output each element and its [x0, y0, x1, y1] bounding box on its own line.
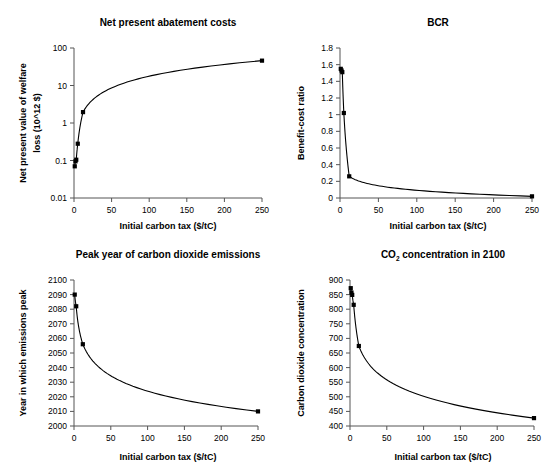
chart-svg-peak-year-of-carbon-dioxide-emissions: Peak year of carbon dioxide emissions200…	[0, 236, 277, 472]
x-tick-label: 250	[525, 205, 539, 215]
data-point-marker	[349, 286, 353, 290]
x-tick-label: 250	[251, 433, 265, 443]
x-tick-label: 0	[72, 433, 77, 443]
data-point-marker	[352, 303, 356, 307]
y-tick-label: 550	[329, 377, 343, 387]
y-tick-label: 0.01	[50, 193, 67, 203]
y-tick-label: 750	[329, 319, 343, 329]
y-tick-label: 100	[53, 43, 67, 53]
x-tick-label: 150	[453, 433, 467, 443]
chart-svg-net-present-abatement-costs: Net present abatement costs0.010.1110100…	[0, 0, 277, 236]
x-tick-label: 150	[448, 205, 462, 215]
y-axis-title: Year in which emissions peak	[18, 288, 28, 416]
x-axis-title: Initial carbon tax ($/tC)	[389, 221, 486, 231]
chart-title: Net present abatement costs	[100, 17, 237, 28]
chart-panel-co2-concentration: CO2 concentration in 2100400450500550600…	[278, 236, 555, 472]
x-tick-label: 100	[141, 433, 155, 443]
x-tick-label: 250	[255, 205, 269, 215]
y-tick-label: 0.8	[321, 126, 333, 136]
x-tick-label: 50	[374, 205, 384, 215]
y-tick-label: 0	[328, 193, 333, 203]
x-tick-label: 250	[527, 433, 541, 443]
data-series-curve	[351, 288, 534, 418]
data-point-marker	[73, 164, 77, 168]
y-tick-label: 700	[329, 333, 343, 343]
y-tick-label: 2060	[48, 333, 67, 343]
x-axis-title: Initial carbon tax ($/tC)	[119, 452, 216, 462]
chart-svg-bcr: BCR00.20.40.60.811.21.41.61.805010015020…	[278, 0, 555, 236]
data-series-curve	[75, 295, 258, 412]
data-point-marker	[530, 194, 534, 198]
x-axis-title: Initial carbon tax ($/tC)	[394, 452, 491, 462]
y-tick-label: 0.2	[321, 176, 333, 186]
y-tick-label: 2090	[48, 290, 67, 300]
y-tick-label: 1.6	[321, 60, 333, 70]
x-tick-label: 200	[214, 433, 228, 443]
data-point-marker	[342, 111, 346, 115]
y-tick-label: 2020	[48, 392, 67, 402]
data-point-marker	[81, 342, 85, 346]
x-tick-label: 150	[180, 205, 194, 215]
x-tick-label: 150	[177, 433, 191, 443]
x-tick-label: 200	[487, 205, 501, 215]
y-tick-label: 600	[329, 363, 343, 373]
x-tick-label: 50	[107, 205, 117, 215]
chart-title: CO2 concentration in 2100	[381, 249, 506, 262]
y-tick-label: 2080	[48, 304, 67, 314]
y-tick-label: 1.2	[321, 93, 333, 103]
x-tick-label: 200	[217, 205, 231, 215]
y-tick-label: 650	[329, 348, 343, 358]
y-axis-title: loss (10^12 $)	[32, 93, 42, 152]
y-tick-label: 2010	[48, 406, 67, 416]
x-tick-label: 0	[72, 205, 77, 215]
data-point-marker	[350, 293, 354, 297]
y-axis-title: Benefit-cost ratio	[296, 85, 306, 160]
chart-title: Peak year of carbon dioxide emissions	[76, 249, 261, 260]
chart-svg-co2-concentration-in-2100: CO2 concentration in 2100400450500550600…	[278, 236, 555, 472]
y-tick-label: 1.8	[321, 43, 333, 53]
x-tick-label: 0	[338, 205, 343, 215]
data-point-marker	[76, 142, 80, 146]
x-axis-title: Initial carbon tax ($/tC)	[119, 221, 216, 231]
y-tick-label: 800	[329, 304, 343, 314]
data-point-marker	[340, 70, 344, 74]
data-series-curve	[341, 69, 532, 197]
data-point-marker	[74, 158, 78, 162]
y-tick-label: 2100	[48, 275, 67, 285]
chart-panel-bcr: BCR00.20.40.60.811.21.41.61.805010015020…	[278, 0, 555, 236]
data-point-marker	[256, 409, 260, 413]
y-tick-label: 400	[329, 421, 343, 431]
y-tick-label: 10	[58, 81, 68, 91]
chart-panel-net-present-abatement-costs: Net present abatement costs0.010.1110100…	[0, 0, 277, 236]
y-axis-title: Net present value of welfare	[18, 63, 28, 183]
data-point-marker	[73, 293, 77, 297]
data-point-marker	[357, 344, 361, 348]
data-series-curve	[75, 61, 262, 167]
y-tick-label: 0.1	[55, 156, 67, 166]
x-tick-label: 0	[348, 433, 353, 443]
x-tick-label: 100	[142, 205, 156, 215]
x-tick-label: 50	[106, 433, 116, 443]
x-tick-label: 200	[490, 433, 504, 443]
four-panel-figure: Net present abatement costs0.010.1110100…	[0, 0, 555, 472]
data-point-marker	[81, 110, 85, 114]
data-point-marker	[74, 304, 78, 308]
y-tick-label: 850	[329, 290, 343, 300]
x-tick-label: 100	[417, 433, 431, 443]
data-point-marker	[532, 416, 536, 420]
chart-title: BCR	[427, 17, 449, 28]
y-tick-label: 1	[328, 110, 333, 120]
y-tick-label: 1	[62, 118, 67, 128]
y-tick-label: 900	[329, 275, 343, 285]
y-tick-label: 2040	[48, 363, 67, 373]
x-tick-label: 50	[382, 433, 392, 443]
y-tick-label: 0.6	[321, 143, 333, 153]
y-tick-label: 500	[329, 392, 343, 402]
y-tick-label: 0.4	[321, 160, 333, 170]
y-tick-label: 1.4	[321, 76, 333, 86]
y-tick-label: 2050	[48, 348, 67, 358]
x-tick-label: 100	[410, 205, 424, 215]
data-point-marker	[347, 174, 351, 178]
y-tick-label: 2000	[48, 421, 67, 431]
chart-panel-peak-year: Peak year of carbon dioxide emissions200…	[0, 236, 277, 472]
